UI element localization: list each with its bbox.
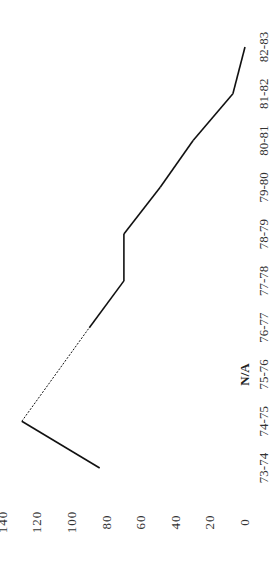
x-tick-label: 78-79 (256, 219, 271, 249)
data-series-line (22, 47, 245, 468)
y-tick-label: 140 (0, 511, 10, 534)
line-segment (193, 94, 233, 141)
line-segment (124, 187, 160, 234)
x-tick-label: 77-78 (256, 266, 271, 296)
y-tick-label: 100 (64, 511, 79, 534)
x-axis-tick-labels: 73-7474-7575-7676-7777-7878-7979-8080-81… (256, 32, 271, 483)
y-tick-label: 0 (237, 518, 252, 526)
y-axis-tick-labels: 020406080100120140 (0, 511, 252, 534)
x-tick-label: 81-82 (256, 79, 271, 109)
na-annotation: N/A (237, 363, 252, 386)
line-segment-interpolated (22, 328, 89, 422)
line-segment (160, 141, 193, 188)
x-tick-label: 74-75 (256, 406, 271, 436)
line-segment (233, 47, 245, 94)
x-tick-label: 73-74 (256, 452, 271, 483)
y-tick-label: 120 (29, 511, 44, 534)
y-tick-label: 80 (99, 515, 114, 530)
x-tick-label: 79-80 (256, 172, 271, 202)
x-tick-label: 76-77 (256, 312, 271, 343)
line-segment (22, 421, 100, 468)
y-tick-label: 60 (133, 515, 148, 530)
line-chart: 020406080100120140 73-7474-7575-7676-777… (0, 0, 279, 570)
y-tick-label: 20 (202, 515, 217, 530)
x-tick-label: 75-76 (256, 359, 271, 390)
x-tick-label: 82-83 (256, 32, 271, 62)
y-tick-label: 40 (168, 515, 183, 530)
x-tick-label: 80-81 (256, 125, 271, 155)
line-segment (89, 281, 124, 328)
